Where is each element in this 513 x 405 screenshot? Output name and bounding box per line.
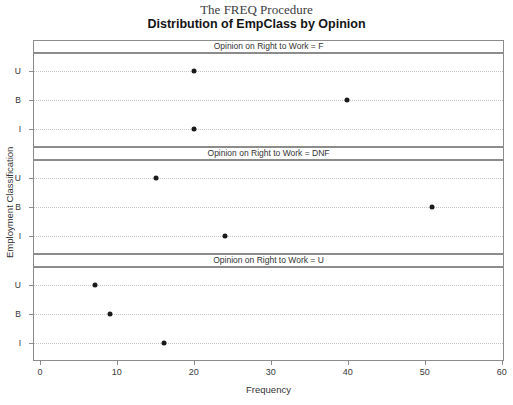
y-tick bbox=[29, 343, 34, 344]
panel-plot: UBI bbox=[33, 53, 504, 147]
y-tick bbox=[29, 129, 34, 130]
y-tick bbox=[29, 71, 34, 72]
y-tick bbox=[29, 207, 34, 208]
y-tick-label: B bbox=[15, 96, 21, 105]
x-tick bbox=[502, 361, 503, 365]
data-point bbox=[92, 283, 97, 288]
x-tick-label: 50 bbox=[420, 367, 430, 377]
gridline bbox=[34, 129, 503, 130]
panel-stack: Opinion on Right to Work = FUBIOpinion o… bbox=[33, 40, 504, 361]
x-tick-label: 40 bbox=[343, 367, 353, 377]
y-tick-label: U bbox=[15, 67, 21, 76]
y-tick bbox=[29, 314, 34, 315]
y-tick bbox=[29, 285, 34, 286]
gridline bbox=[34, 285, 503, 286]
data-point bbox=[161, 340, 166, 345]
panel-header: Opinion on Right to Work = F bbox=[33, 40, 504, 53]
data-point bbox=[192, 69, 197, 74]
gridline bbox=[34, 178, 503, 179]
y-tick-label: U bbox=[15, 174, 21, 183]
x-tick bbox=[348, 361, 349, 365]
y-tick-label: B bbox=[15, 310, 21, 319]
x-tick-label: 20 bbox=[189, 367, 199, 377]
gridline bbox=[34, 100, 503, 101]
y-tick-label: I bbox=[19, 124, 21, 133]
panel-plot: UBI bbox=[33, 160, 504, 254]
y-tick-label: I bbox=[19, 231, 21, 240]
x-tick bbox=[117, 361, 118, 365]
chart-title: Distribution of EmpClass by Opinion bbox=[0, 17, 513, 31]
x-axis-label: Frequency bbox=[33, 384, 504, 395]
data-point bbox=[192, 126, 197, 131]
y-axis-label: Employment Classification bbox=[2, 110, 16, 295]
panel-header: Opinion on Right to Work = DNF bbox=[33, 147, 504, 160]
data-point bbox=[429, 205, 434, 210]
procedure-title: The FREQ Procedure bbox=[0, 2, 513, 18]
x-tick bbox=[271, 361, 272, 365]
x-tick bbox=[40, 361, 41, 365]
y-tick-label: B bbox=[15, 203, 21, 212]
x-tick-label: 60 bbox=[497, 367, 507, 377]
gridline bbox=[34, 343, 503, 344]
data-point bbox=[345, 98, 350, 103]
gridline bbox=[34, 236, 503, 237]
data-point bbox=[222, 233, 227, 238]
y-tick bbox=[29, 178, 34, 179]
x-tick-label: 10 bbox=[112, 367, 122, 377]
x-tick-label: 0 bbox=[37, 367, 42, 377]
x-tick bbox=[425, 361, 426, 365]
x-tick-label: 30 bbox=[266, 367, 276, 377]
y-tick-label: I bbox=[19, 338, 21, 347]
panel-plot: UBI bbox=[33, 267, 504, 361]
data-point bbox=[107, 312, 112, 317]
freq-procedure-page: The FREQ Procedure Distribution of EmpCl… bbox=[0, 0, 513, 405]
x-axis: 0102030405060 bbox=[33, 361, 504, 379]
x-tick bbox=[194, 361, 195, 365]
data-point bbox=[153, 176, 158, 181]
gridline bbox=[34, 71, 503, 72]
y-tick bbox=[29, 236, 34, 237]
y-tick-label: U bbox=[15, 281, 21, 290]
y-tick bbox=[29, 100, 34, 101]
gridline bbox=[34, 314, 503, 315]
panel-header: Opinion on Right to Work = U bbox=[33, 254, 504, 267]
